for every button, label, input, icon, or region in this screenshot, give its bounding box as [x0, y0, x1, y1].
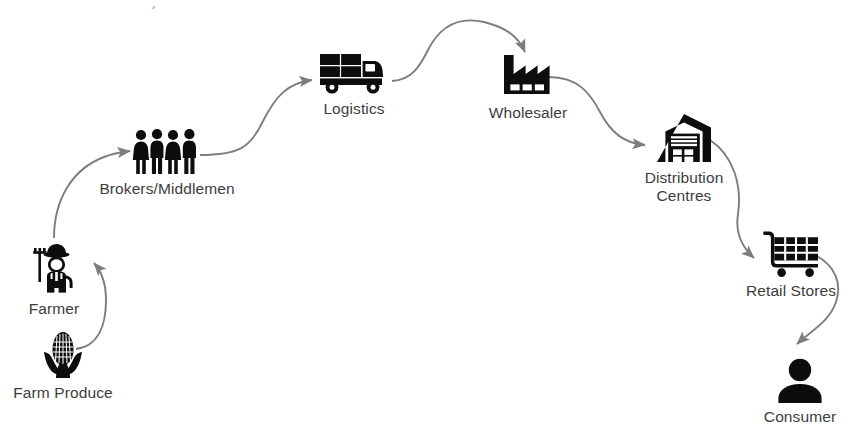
connector-arrow-layer [0, 0, 862, 447]
node-retail-stores[interactable]: Retail Stores [736, 228, 846, 300]
corn-icon [41, 330, 85, 380]
node-label-logistics: Logistics [323, 100, 384, 118]
node-logistics[interactable]: Logistics [304, 50, 404, 118]
node-distribution-centres[interactable]: Distribution Centres [625, 112, 743, 206]
node-label-distribution-centres: Distribution Centres [645, 169, 724, 206]
person-icon [774, 358, 826, 404]
node-consumer[interactable]: Consumer [748, 358, 852, 426]
supply-chain-diagram: Farm Produce [0, 0, 862, 447]
node-label-consumer: Consumer [764, 408, 836, 426]
node-label-farm-produce: Farm Produce [13, 384, 112, 402]
node-farm-produce[interactable]: Farm Produce [0, 330, 126, 402]
node-label-retail-stores: Retail Stores [746, 282, 836, 300]
farmer-icon [25, 238, 83, 296]
node-wholesaler[interactable]: Wholesaler [478, 52, 578, 122]
node-label-farmer: Farmer [29, 300, 80, 318]
node-brokers-middlemen[interactable]: Brokers/Middlemen [94, 128, 240, 198]
delivery-truck-icon [318, 50, 390, 96]
people-group-icon [130, 128, 204, 176]
factory-icon [498, 52, 558, 100]
shopping-cart-icon [760, 228, 822, 278]
warehouse-icon [655, 112, 713, 165]
node-farmer[interactable]: Farmer [8, 238, 100, 318]
node-label-wholesaler: Wholesaler [489, 104, 568, 122]
cropped-text-artifact [143, 0, 157, 9]
node-label-brokers-middlemen: Brokers/Middlemen [99, 180, 234, 198]
